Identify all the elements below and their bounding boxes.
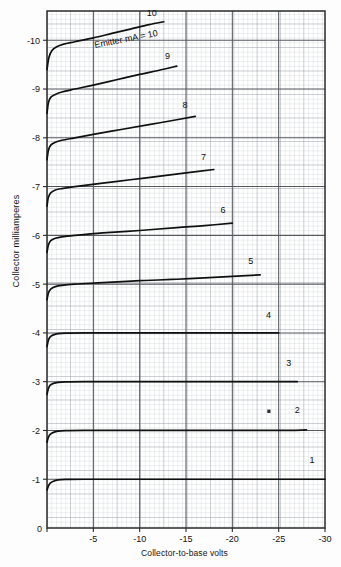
- curve-label-8: 8: [183, 100, 188, 110]
- curve-label-1: 1: [310, 455, 315, 465]
- y-tick-label: -3: [32, 377, 40, 387]
- y-tick-label: -2: [32, 426, 40, 436]
- x-tick-labels: -5-10-15-20-25-30: [89, 534, 331, 544]
- x-tick-label: -10: [133, 534, 146, 544]
- x-tick-label: -5: [89, 534, 97, 544]
- y-tick-label: -4: [32, 328, 40, 338]
- y-axis-title: Collector milliamperes: [11, 181, 21, 301]
- chart-figure: -5-10-15-20-25-30 -1-2-3-4-5-6-7-8-9-10 …: [0, 0, 341, 567]
- y-tick-label: -7: [32, 182, 40, 192]
- x-axis-title: Collector-to-base volts: [0, 548, 341, 558]
- y-tick-label: -5: [32, 280, 40, 290]
- page-speck-artifact: [267, 410, 270, 413]
- y-tick-label: -9: [32, 84, 40, 94]
- y-tick-label: -6: [32, 231, 40, 241]
- transistor-characteristic-chart: -5-10-15-20-25-30 -1-2-3-4-5-6-7-8-9-10 …: [0, 0, 341, 567]
- curve-label-2: 2: [295, 405, 300, 415]
- y-tick-label: -8: [32, 133, 40, 143]
- curve-label-4: 4: [266, 310, 271, 320]
- curve-label-6: 6: [221, 205, 226, 215]
- x-tick-label: -30: [318, 534, 331, 544]
- y-tick-label: -1: [32, 475, 40, 485]
- origin-label: 0: [37, 524, 42, 534]
- x-tick-label: -25: [272, 534, 285, 544]
- y-tick-label: -10: [27, 36, 40, 46]
- x-tick-label: -15: [179, 534, 192, 544]
- y-tick-labels: -1-2-3-4-5-6-7-8-9-10: [27, 36, 40, 485]
- curve-label-3: 3: [286, 358, 291, 368]
- x-tick-label: -20: [226, 534, 239, 544]
- curve-label-10: 10: [147, 8, 157, 18]
- curve-label-7: 7: [201, 152, 206, 162]
- curve-label-9: 9: [165, 51, 170, 61]
- curve-label-5: 5: [248, 256, 253, 266]
